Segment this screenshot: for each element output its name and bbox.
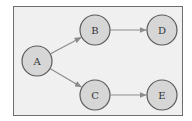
node-e[interactable]: E	[147, 80, 177, 110]
edge-a-b-arrow	[51, 37, 81, 53]
node-b-label: B	[91, 25, 98, 36]
node-c[interactable]: C	[80, 80, 110, 110]
edge-a-c-arrow	[50, 69, 81, 87]
node-a[interactable]: A	[22, 46, 52, 76]
node-c-label: C	[91, 90, 99, 101]
node-a-label: A	[32, 56, 41, 67]
graph-canvas: A B C D E	[0, 0, 192, 121]
node-b[interactable]: B	[80, 15, 110, 45]
nodes-layer: A B C D E	[22, 15, 177, 110]
node-d-label: D	[158, 25, 166, 36]
node-d[interactable]: D	[147, 15, 177, 45]
node-e-label: E	[158, 90, 165, 101]
